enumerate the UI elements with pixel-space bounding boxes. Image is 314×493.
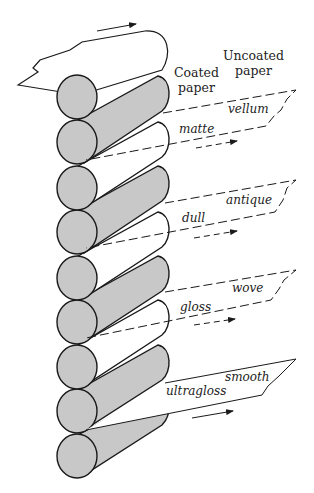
coated-finish-label: ultragloss (166, 385, 226, 397)
coated-finish-label: matte (179, 123, 214, 135)
uncoated-finish-label: antique (226, 194, 272, 206)
arrow-icon (194, 319, 235, 325)
coated-finish-label: dull (182, 212, 205, 224)
uncoated-header-line-1: Uncoated (223, 48, 284, 63)
uncoated-finish-label: smooth (225, 371, 270, 383)
coated-header-line-2: paper (174, 80, 219, 95)
coated-finish-label: gloss (180, 301, 211, 313)
uncoated-header-line-2: paper (223, 63, 284, 78)
paper-finish-diagram: Coated paper Uncoated paper matte dull g… (0, 0, 314, 493)
uncoated-paper-header: Uncoated paper (223, 48, 284, 78)
arrow-icon (192, 411, 233, 418)
coated-paper-header: Coated paper (174, 65, 219, 95)
uncoated-finish-label: vellum (228, 103, 269, 115)
arrow-icon (196, 141, 237, 148)
arrow-icon (97, 24, 136, 31)
coated-header-line-1: Coated (174, 65, 219, 80)
uncoated-finish-label: wove (232, 282, 263, 294)
arrow-icon (194, 231, 237, 238)
